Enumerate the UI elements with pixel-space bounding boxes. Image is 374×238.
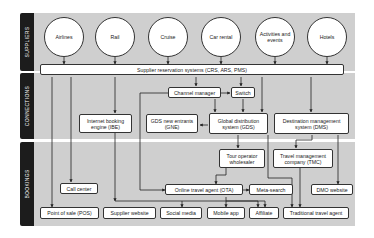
point-of-sale: Point of sale (POS) [40,207,99,219]
global-distribution-system: Global distribution system (GDS) [209,113,268,134]
call-center: Call center [60,183,98,194]
supplier-car-rental: Car rental [201,17,241,57]
online-travel-agent: Online travel agent (OTA) [165,184,243,195]
supplier-airlines: Airlines [44,17,84,57]
supplier-cruise: Cruise [148,17,188,57]
supplier-activities: Activities and events [255,17,295,57]
travel-management-company: Travel management company (TMC) [273,149,333,168]
switch: Switch [231,87,255,98]
meta-search: Meta-search [249,184,293,195]
supplier-rail: Rail [95,17,135,57]
supplier-website: Supplier website [103,207,156,219]
internet-booking-engine: Internet booking engine (IBE) [79,114,132,133]
dmo-website: DMO website [311,184,353,195]
traditional-travel-agent: Traditional travel agent [283,207,349,219]
affiliate: Affiliate [249,207,279,219]
supplier-reservation-systems: Supplier reservation systems (CRS, ARS, … [40,64,344,75]
tour-operator-wholesaler: Tour operator wholesaler [219,149,265,168]
gds-new-entrants: GDS new entrants (GNE) [146,114,198,133]
supplier-hotels: Hotels [307,17,347,57]
destination-management-system: Destination management system (DMS) [274,113,349,134]
channel-manager: Channel manager [168,87,221,98]
social-media: Social media [160,207,202,219]
mobile-app: Mobile app [207,207,245,219]
